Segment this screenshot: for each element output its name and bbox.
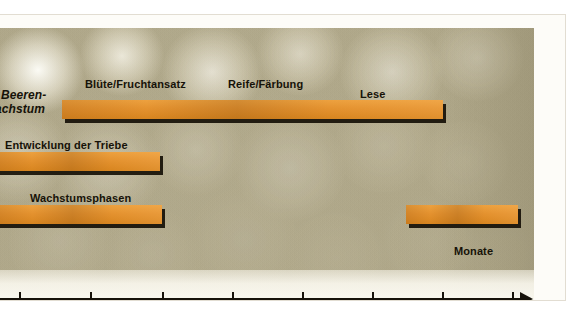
bar-wachstumsphasen bbox=[0, 205, 162, 224]
phase-label-reife-faerbung: Reife/Färbung bbox=[228, 78, 303, 90]
axis-tick-juni bbox=[90, 292, 92, 300]
series-label-beerenwachstum-line2: achstum bbox=[0, 103, 45, 116]
series-label-wachstumsphasen: Wachstumsphasen bbox=[30, 192, 131, 204]
axis-tick-okt bbox=[372, 292, 374, 300]
photo-bottom-strip bbox=[0, 270, 534, 300]
phase-label-lese: Lese bbox=[360, 88, 385, 100]
series-label-beerenwachstum-line1: Beeren- bbox=[1, 89, 46, 102]
photo-vignette bbox=[438, 28, 534, 300]
axis-tick-mai bbox=[19, 292, 21, 300]
bar-beerenwachstum bbox=[62, 100, 443, 119]
series-label-entwicklung-der-triebe: Entwicklung der Triebe bbox=[5, 139, 128, 151]
grape-photo-background: Blüte/Fruchtansatz Reife/Färbung Lese Be… bbox=[0, 28, 534, 300]
axis-tick-nov bbox=[442, 292, 444, 300]
axis-tick-juli bbox=[162, 292, 164, 300]
time-axis-arrow-icon bbox=[520, 292, 533, 300]
axis-tick-sept bbox=[302, 292, 304, 300]
axis-tick-dez bbox=[512, 292, 514, 300]
figure-root: Blüte/Fruchtansatz Reife/Färbung Lese Be… bbox=[0, 0, 582, 321]
axis-caption-monate: Monate bbox=[454, 245, 493, 257]
phase-label-bluete-fruchtansatz: Blüte/Fruchtansatz bbox=[85, 78, 186, 90]
axis-tick-aug bbox=[232, 292, 234, 300]
bar-entwicklung-der-triebe bbox=[0, 152, 160, 171]
bar-ruhephase bbox=[406, 205, 518, 224]
